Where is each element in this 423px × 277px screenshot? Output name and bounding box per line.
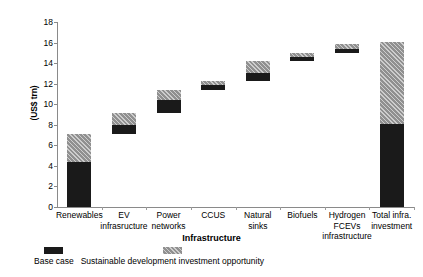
bar-segment-base (246, 73, 270, 80)
bar-segment-base (290, 57, 314, 61)
legend-swatch (44, 247, 63, 254)
chart-legend: Base caseSustainable development investm… (34, 247, 271, 266)
y-axis-tick-label: 0 (1, 203, 53, 212)
y-axis-tick-mark (54, 207, 57, 208)
y-axis-tick-mark (54, 63, 57, 64)
y-axis-tick-label: 2 (1, 182, 53, 191)
legend-label: Sustainable development investment oppor… (81, 256, 264, 266)
bar-segment-base (157, 100, 181, 113)
waterfall-chart: (US$ trn) 024681012141618 Infrastructure… (0, 0, 423, 277)
bar-segment-sdio (246, 61, 270, 73)
y-axis-tick-label: 10 (1, 100, 53, 109)
bar-segment-sdio (157, 90, 181, 100)
y-axis-tick-mark (54, 43, 57, 44)
bar-segment-base (380, 124, 404, 207)
y-axis-line (57, 22, 58, 208)
y-axis-tick-mark (54, 125, 57, 126)
y-axis-tick-mark (54, 145, 57, 146)
legend-item: Base case (34, 247, 74, 266)
y-axis-tick-mark (54, 22, 57, 23)
y-axis-tick-label: 12 (1, 79, 53, 88)
bar-segment-sdio (112, 113, 136, 124)
bar-segment-sdio (67, 134, 91, 162)
y-axis-tick-mark (54, 84, 57, 85)
legend-item: Sustainable development investment oppor… (81, 247, 264, 266)
bar-segment-base (67, 162, 91, 207)
y-axis-tick-label: 14 (1, 59, 53, 68)
y-axis-tick-label: 16 (1, 38, 53, 47)
bar-segment-base (335, 49, 359, 53)
bar-segment-sdio (380, 42, 404, 124)
plot-area: 024681012141618 (57, 22, 414, 207)
y-axis-tick-label: 8 (1, 121, 53, 130)
y-axis-tick-mark (54, 186, 57, 187)
y-axis-tick-mark (54, 104, 57, 105)
bar-segment-base (112, 125, 136, 134)
x-axis-category-label: Total infra. investment (365, 210, 418, 231)
bar-segment-base (201, 85, 225, 90)
y-axis-tick-label: 18 (1, 18, 53, 27)
legend-label: Base case (34, 256, 74, 266)
y-axis-tick-mark (54, 166, 57, 167)
legend-swatch (163, 247, 182, 254)
y-axis-tick-label: 4 (1, 162, 53, 171)
y-axis-tick-label: 6 (1, 141, 53, 150)
